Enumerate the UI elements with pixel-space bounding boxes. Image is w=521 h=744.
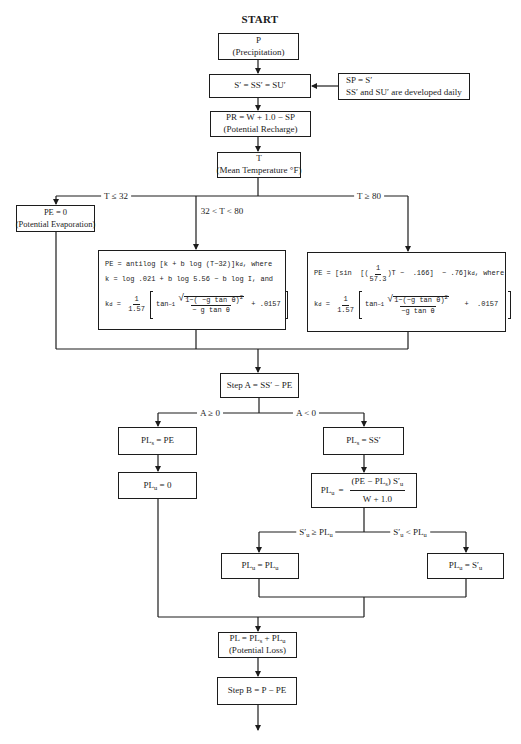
storage-text: S′ = SS′ = SU′: [234, 80, 286, 92]
pe-mid-node: PE = antilog [k + b log (T−32)]kd, where…: [98, 250, 286, 330]
flowchart-canvas: START P (Precipitation) S′ = SS′ = SU′ S…: [0, 0, 521, 744]
edge-label-a-nonneg: A ≥ 0: [197, 409, 223, 418]
sin-frac-num: 1: [375, 265, 381, 275]
kd-denominator: −g tan θ: [400, 306, 436, 316]
kd-eq: =: [113, 301, 126, 309]
pl-u-zero-node: PLu = 0: [118, 472, 197, 499]
su-lt-b-sub: u: [424, 531, 427, 538]
su-lt-b: PL: [413, 527, 424, 537]
kd-coefficient: 11.57: [127, 296, 146, 314]
step-b-node: Step B = P − PE: [217, 677, 297, 705]
pl-u-zero-lhs: PL: [144, 480, 155, 490]
pl-u-calc-node: PLu = (PE − PLs) S′u W + 1.0: [311, 473, 417, 508]
kd-fn: tan: [365, 301, 378, 309]
kd-coef-num: 1: [133, 296, 139, 306]
kd-coef-num: 1: [342, 296, 348, 306]
kd-denominator: − g tan θ: [191, 305, 231, 315]
left-bracket: [150, 291, 153, 319]
step-a-text: Step A = SS′ − PE: [227, 380, 292, 392]
pe-high-kd-formula: kd = 11.57 tan−1 √1−(−g tan θ)2 −g tan θ…: [314, 291, 511, 319]
edge-label-t-mid: 32 < T < 80: [198, 207, 246, 216]
kd-inner-fraction: √1−( −g tan θ)2 − g tan θ: [177, 294, 245, 315]
start-label: START: [220, 13, 300, 25]
su-ge-a: S′: [299, 527, 306, 537]
pe-mid-k-formula: k = log .021 + b log 5.56 − b log I, and: [105, 276, 273, 284]
pl-u-su-lhs: PL: [449, 560, 460, 570]
left-bracket: [359, 291, 362, 319]
pl-u-calc-eq: =: [339, 485, 344, 497]
potential-loss-node: PL = PLs + PLu (Potential Loss): [218, 632, 297, 658]
pe-high-line1-mid: )T − .166] − .76]k: [387, 270, 471, 278]
step-b-text: Step B = P − PE: [228, 685, 287, 697]
pl-u-calc-lhs: PL: [321, 485, 332, 495]
edge-label-a-neg: A < 0: [293, 409, 319, 418]
kd-radicand-sup: 2: [445, 294, 448, 301]
pe-low-formula: PE = 0: [44, 207, 67, 218]
recharge-formula: PR = W + 1.0 − SP: [226, 112, 295, 124]
kd-coef-den: 1.57: [127, 305, 146, 314]
pe-high-line1-text: PE = [sin [(: [314, 270, 369, 278]
pl-total-b: + PL: [262, 633, 282, 643]
pl-u-calc-num-a: (PE − PL: [352, 476, 386, 486]
pe-low-caption: (Potential Evaporation): [16, 219, 96, 230]
recharge-caption: (Potential Recharge): [223, 124, 297, 136]
storage-note-node: SP = S′ SS′ and SU′ are developed daily: [338, 73, 470, 100]
pl-u-keep-rhs-sub: u: [275, 564, 278, 571]
pe-mid-kd-formula: kd = 11.57 tan−1 √1−( −g tan θ)2 − g tan…: [105, 291, 288, 319]
storage-note-line1: SP = S′: [346, 75, 372, 87]
pl-s-pe-node: PLs = PE: [118, 427, 197, 455]
pl-u-su-eq: =: [462, 560, 472, 570]
pe-high-line1: PE = [sin [( 157.3 )T − .166] − .76]kd, …: [314, 265, 504, 283]
pe-mid-line1-text: PE = antilog [k + b log (T−32)]k: [105, 261, 239, 269]
kd-inner-fraction: √1−(−g tan θ)2 −g tan θ: [386, 295, 450, 316]
pl-u-keep-eq: =: [255, 560, 265, 570]
pl-u-calc-sub: u: [331, 489, 334, 496]
pl-u-su-node: PLu = S′u: [427, 553, 504, 579]
temperature-caption: (Mean Temperature °F): [217, 165, 302, 177]
precipitation-caption: (Precipitation): [233, 47, 285, 59]
pe-high-sin-fraction: 157.3: [369, 265, 388, 283]
temperature-symbol: T: [256, 153, 262, 165]
su-lt-a: S′: [393, 527, 400, 537]
pl-u-calc-fraction: (PE − PLs) S′u W + 1.0: [350, 476, 406, 505]
edge-label-t-low: T ≤ 32: [101, 192, 131, 201]
right-bracket: [285, 291, 288, 319]
temperature-node: T (Mean Temperature °F): [217, 152, 301, 178]
pe-low-node: PE = 0 (Potential Evaporation): [16, 205, 95, 232]
pl-s-ss-lhs: PL: [346, 435, 357, 445]
sin-frac-den: 57.3: [369, 275, 388, 284]
pl-s-ss-node: PLs = SS′: [323, 427, 404, 455]
pl-u-su-rhs-sub: u: [479, 564, 482, 571]
storage-node: S′ = SS′ = SU′: [209, 74, 311, 98]
kd-coefficient: 11.57: [336, 296, 355, 314]
su-lt-op: <: [403, 527, 413, 537]
recharge-node: PR = W + 1.0 − SP (Potential Recharge): [210, 111, 311, 137]
pl-u-calc-num-b: ) S′: [388, 476, 400, 486]
edge-label-su-lt: S′u < PLu: [390, 528, 430, 537]
pl-s-ss-rhs: = SS′: [359, 435, 381, 445]
su-ge-b: PL: [319, 527, 330, 537]
kd-radicand-sup: 2: [240, 294, 243, 301]
kd-radicand: 1−(−g tan θ): [394, 296, 444, 304]
kd-tail: + .0157: [247, 301, 281, 309]
kd-radicand: 1−( −g tan θ): [185, 296, 240, 304]
pe-high-line1-tail: , where: [475, 270, 504, 278]
pe-high-node: PE = [sin [( 157.3 )T − .166] − .76]kd, …: [307, 252, 506, 332]
pl-s-pe-rhs: = PE: [154, 435, 174, 445]
storage-note-line2: SS′ and SU′ are developed daily: [346, 87, 462, 99]
kd-coef-den: 1.57: [336, 306, 355, 315]
kd-tail: + .0157: [452, 301, 498, 309]
pl-u-su-rhs: S′: [472, 560, 479, 570]
step-a-node: Step A = SS′ − PE: [220, 373, 299, 398]
pe-mid-line2: k = log .021 + b log 5.56 − b log I, and: [105, 276, 273, 284]
su-ge-b-sub: u: [329, 531, 332, 538]
edge-label-t-high: T ≥ 80: [354, 192, 384, 201]
pe-mid-line1-tail: , where: [243, 261, 272, 269]
precipitation-node: P (Precipitation): [218, 33, 299, 60]
potential-loss-caption: (Potential Loss): [229, 645, 286, 657]
edge-label-su-ge: S′u ≥ PLu: [296, 528, 335, 537]
kd-fn: tan: [156, 301, 169, 309]
pl-u-calc-den: W + 1.0: [362, 491, 393, 506]
kd-eq: =: [322, 301, 335, 309]
pl-u-calc-num-sub2: u: [400, 480, 403, 487]
